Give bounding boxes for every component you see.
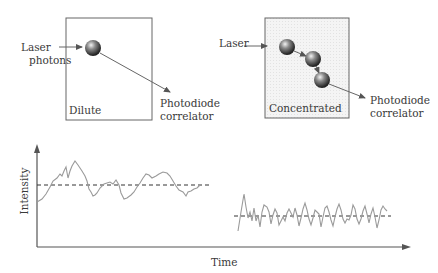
- sphere-icon: [314, 72, 330, 88]
- sphere-icon: [85, 40, 101, 56]
- y-axis-label: Intensity: [18, 167, 30, 215]
- dilute-trace: [37, 161, 200, 202]
- photodiode-label-line1: Photodiode: [370, 94, 430, 106]
- laser-photons-label-line1: Laser: [21, 41, 51, 53]
- x-axis-label: Time: [211, 256, 238, 268]
- photodiode-label-line2: correlator: [370, 107, 424, 119]
- sphere-icon: [279, 39, 295, 55]
- dilute-box-label: Dilute: [69, 104, 101, 116]
- concentrated-trace: [238, 194, 387, 231]
- sphere-icon: [305, 51, 321, 67]
- arrow-icon: [34, 144, 40, 153]
- photodiode-label-line1: Photodiode: [160, 97, 220, 109]
- laser-photons-label-line2: photons: [29, 54, 72, 66]
- arrow-icon: [402, 244, 411, 250]
- concentrated-box-label: Concentrated: [269, 102, 342, 114]
- photodiode-label-line2: correlator: [160, 110, 214, 122]
- intensity-graph: [34, 144, 411, 250]
- laser-label: Laser: [219, 37, 249, 49]
